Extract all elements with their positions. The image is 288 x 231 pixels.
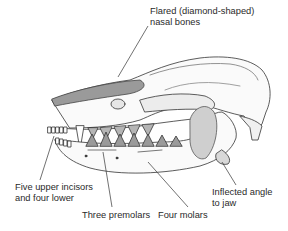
label-inflected-angle: Inflected angle to jaw: [212, 187, 272, 208]
label-line: Three premolars: [82, 210, 150, 221]
label-line: and four lower: [15, 193, 93, 204]
label-line: nasal bones: [150, 17, 254, 28]
orbit: [111, 99, 125, 109]
leader-nasal: [118, 26, 148, 77]
label-line: Five upper incisors: [15, 182, 93, 193]
label-molars: Four molars: [158, 210, 208, 221]
label-incisors: Five upper incisors and four lower: [15, 182, 93, 203]
label-line: Inflected angle: [212, 187, 272, 198]
label-line: Flared (diamond-shaped): [150, 6, 254, 17]
label-line: to jaw: [212, 198, 272, 209]
label-nasal-bones: Flared (diamond-shaped) nasal bones: [150, 6, 254, 27]
label-premolars: Three premolars: [82, 210, 150, 221]
leader-angle: [222, 162, 236, 185]
upper-incisors: [48, 127, 67, 133]
leader-incisors: [40, 136, 54, 180]
label-line: Four molars: [158, 210, 208, 221]
